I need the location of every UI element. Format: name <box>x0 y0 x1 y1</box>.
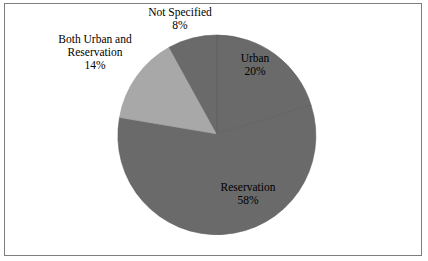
pie-label-both-urban-and-reservation: Both Urban and Reservation 14% <box>40 33 150 72</box>
pie-label-urban-name: Urban <box>215 52 295 65</box>
pie-label-both-value: 14% <box>40 59 150 72</box>
chart-plot-area: Not Specified 8% Both Urban and Reservat… <box>0 0 428 261</box>
pie-label-both-name-line1: Both Urban and <box>40 33 150 46</box>
pie-label-reservation-name: Reservation <box>193 181 303 194</box>
pie-label-not-specified: Not Specified 8% <box>130 6 230 32</box>
pie-label-urban: Urban 20% <box>215 52 295 78</box>
pie-label-urban-value: 20% <box>215 65 295 78</box>
pie-label-not-specified-name: Not Specified <box>130 6 230 19</box>
pie-chart-figure: Not Specified 8% Both Urban and Reservat… <box>0 0 428 261</box>
pie-label-both-name-line2: Reservation <box>40 46 150 59</box>
pie-label-reservation: Reservation 58% <box>193 181 303 207</box>
pie-label-not-specified-value: 8% <box>130 19 230 32</box>
pie-label-reservation-value: 58% <box>193 194 303 207</box>
